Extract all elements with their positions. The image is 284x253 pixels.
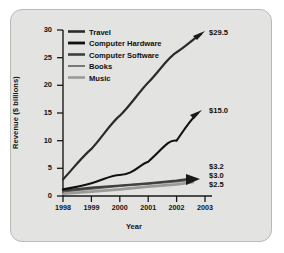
legend-item-travel[interactable]: Travel [89, 28, 111, 37]
y-tick-label: 30 [32, 26, 52, 34]
series-line-hardware [63, 113, 198, 189]
x-tick-label: 2000 [105, 204, 135, 212]
y-axis-title: Revenue ($ billions) [11, 65, 20, 161]
end-label-books: $3.0 [209, 171, 224, 180]
y-tick-marks [57, 30, 63, 196]
y-tick-label: 10 [32, 137, 52, 145]
y-tick-label: 20 [32, 81, 52, 89]
legend-item-computer-software[interactable]: Computer Software [89, 51, 159, 60]
plot-area [0, 0, 284, 253]
legend-item-books[interactable]: Books [89, 62, 112, 71]
end-label-music: $2.5 [209, 180, 224, 189]
end-label-computer-hardware: $15.0 [209, 106, 228, 115]
end-label-travel: $29.5 [209, 28, 228, 37]
legend-item-music[interactable]: Music [89, 74, 111, 83]
chart-figure: Revenue ($ billions) Year 30 25 20 15 10… [0, 0, 284, 253]
x-tick-label: 1999 [76, 204, 106, 212]
y-tick-label: 15 [32, 109, 52, 117]
x-tick-marks [63, 196, 205, 202]
x-tick-label: 2001 [133, 204, 163, 212]
x-tick-label: 2002 [162, 204, 192, 212]
x-tick-label: 1998 [48, 204, 78, 212]
y-tick-label: 25 [32, 54, 52, 62]
x-tick-label: 2003 [190, 204, 220, 212]
legend-item-computer-hardware[interactable]: Computer Hardware [89, 39, 162, 48]
y-tick-label: 0 [32, 192, 52, 200]
x-axis-title: Year [63, 222, 205, 231]
y-tick-label: 5 [32, 164, 52, 172]
end-label-computer-software: $3.2 [209, 162, 224, 171]
arrow-markers [186, 31, 205, 185]
